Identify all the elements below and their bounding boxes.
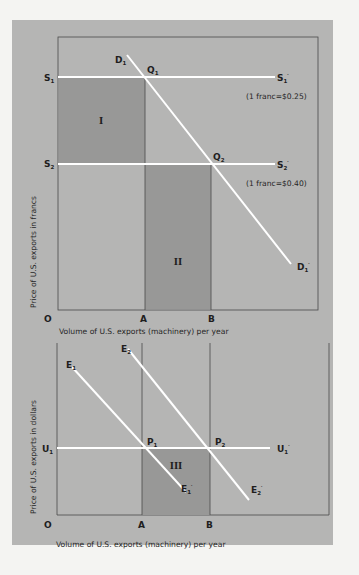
e1-label: E1 xyxy=(66,360,76,371)
top-y-axis-title: Price of U.S. exports in francs xyxy=(29,196,38,308)
bottom-chart: III U1 U1′ E1 E1′ E2 E2′ P1 P2 O A B Vol… xyxy=(29,343,329,549)
region-i-label: I xyxy=(99,116,103,126)
u1-label: U1 xyxy=(42,444,53,455)
d1-prime-label: D1′ xyxy=(297,262,310,273)
point-q2-label: Q2 xyxy=(213,152,225,163)
s2-exchange-rate-note: (1 franc=$0.40) xyxy=(246,179,307,188)
s2-label: S2 xyxy=(44,159,54,170)
e2-label: E2 xyxy=(121,344,131,355)
point-p1-label: P1 xyxy=(147,437,158,448)
top-origin-label: O xyxy=(44,314,52,324)
curve-e1 xyxy=(72,367,186,492)
top-x-axis-title: Volume of U.S. exports (machinery) per y… xyxy=(59,327,229,336)
u1-prime-label: U1′ xyxy=(277,444,290,455)
bottom-origin-label: O xyxy=(44,520,52,530)
exchange-rate-diagram: I II S1 S2 S1′ (1 franc=$0.25) S2′ (1 fr… xyxy=(0,0,359,575)
s1-prime-label: S1′ xyxy=(277,73,289,84)
point-q1-label: Q1 xyxy=(147,65,159,76)
bottom-y-axis-title: Price of U.S. exports in dollars xyxy=(29,400,38,514)
region-iii-label: III xyxy=(170,461,183,471)
top-chart: I II S1 S2 S1′ (1 franc=$0.25) S2′ (1 fr… xyxy=(29,37,318,336)
bottom-x-axis-title: Volume of U.S. exports (machinery) per y… xyxy=(56,540,226,549)
region-ii xyxy=(145,164,211,310)
top-a-label: A xyxy=(140,314,147,324)
e2-prime-label: E2′ xyxy=(251,485,263,496)
s1-label: S1 xyxy=(44,73,54,84)
s2-prime-label: S2′ xyxy=(277,160,289,171)
region-ii-label: II xyxy=(174,257,182,267)
d1-label: D1 xyxy=(115,55,126,66)
top-b-label: B xyxy=(208,314,215,324)
point-p2-label: P2 xyxy=(215,437,226,448)
s1-exchange-rate-note: (1 franc=$0.25) xyxy=(246,92,307,101)
bottom-b-label: B xyxy=(206,520,213,530)
bottom-a-label: A xyxy=(138,520,145,530)
